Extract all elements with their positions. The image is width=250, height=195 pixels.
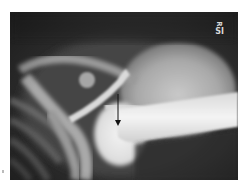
- edge-mark: [2, 170, 4, 173]
- xray-graphic: [10, 12, 238, 180]
- page: R SI: [0, 0, 250, 195]
- side-marker: R SI: [215, 20, 224, 36]
- xray-image: R SI: [10, 12, 238, 180]
- marker-line1: R: [216, 20, 224, 29]
